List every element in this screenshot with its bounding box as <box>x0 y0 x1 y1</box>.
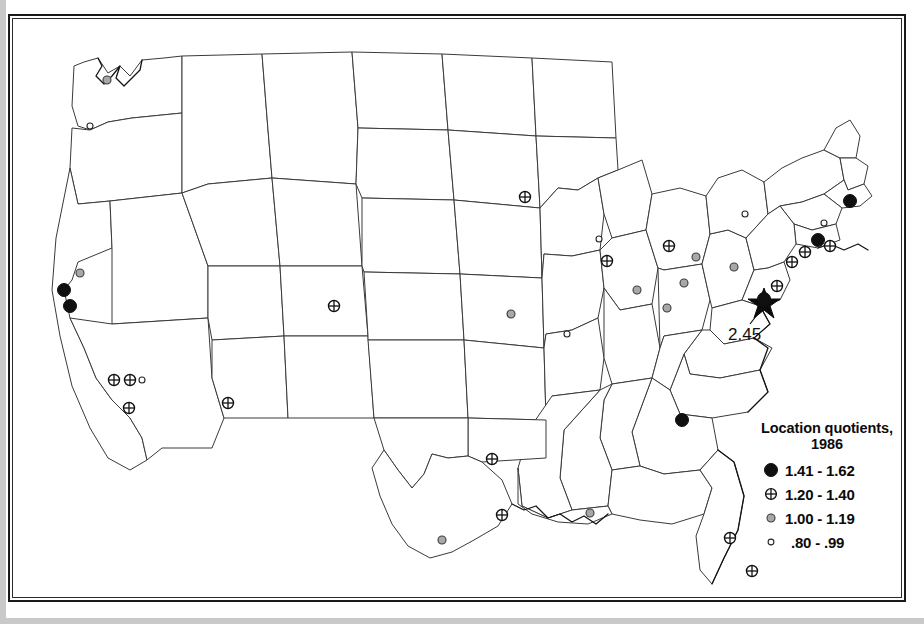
legend-label-class-1: 1.20 - 1.40 <box>785 486 855 503</box>
city-marker: New Orleans — 1.00 - 1.19 <box>586 509 594 517</box>
city-marker: Dallas — 1.20 - 1.40 <box>487 454 498 465</box>
city-marker: Seattle — 1.00 - 1.19 <box>103 76 111 84</box>
legend-title-line1: Location quotients, <box>761 420 893 436</box>
city-marker: San Diego — 1.20 - 1.40 <box>124 403 135 414</box>
city-marker: Newark — 1.20 - 1.40 <box>800 247 811 258</box>
legend-symbol-open-circle <box>757 533 785 551</box>
city-marker: Nassau — 1.20 - 1.40 <box>825 241 836 252</box>
city-marker: Cleveland — 1.00 - 1.19 <box>692 253 700 261</box>
city-marker: Oakland — 1.41 - 1.62 <box>64 300 77 313</box>
city-marker: Atlanta — 1.41 - 1.62 <box>676 414 689 427</box>
city-marker: Indianapolis — 1.00 - 1.19 <box>633 286 641 294</box>
city-marker: St. Louis — .80 - .99 <box>564 331 570 337</box>
state-boundaries <box>52 52 872 584</box>
legend-row-class-1: 1.20 - 1.40 <box>757 482 897 506</box>
legend-title-line2: 1986 <box>757 436 897 452</box>
city-marker: Detroit — 1.20 - 1.40 <box>664 241 675 252</box>
legend-row-class-0: 1.41 - 1.62 <box>757 458 897 482</box>
legend-row-class-2: 1.00 - 1.19 <box>757 506 897 530</box>
city-marker: Pittsburgh — 1.00 - 1.19 <box>730 263 738 271</box>
city-marker: Kansas City — 1.00 - 1.19 <box>507 310 515 318</box>
legend-symbol-filled-black-circle <box>757 461 785 479</box>
city-marker: San Antonio — 1.00 - 1.19 <box>438 536 446 544</box>
city-marker: Miami — 1.20 - 1.40 <box>747 566 758 577</box>
city-marker: Boston — 1.41 - 1.62 <box>844 195 857 208</box>
city-marker: Columbus — 1.00 - 1.19 <box>680 279 688 287</box>
city-marker: Los Angeles — 1.20 - 1.40 <box>109 375 120 386</box>
legend-symbol-gray-circle <box>757 509 785 527</box>
city-marker: Buffalo — .80 - .99 <box>742 211 748 217</box>
legend-label-class-0: 1.41 - 1.62 <box>785 462 855 479</box>
map-legend: Location quotients, 1986 1.41 - 1.62 1.2… <box>757 420 897 554</box>
scan-edge-left <box>0 0 6 624</box>
city-marker: Portland — .80 - .99 <box>87 123 93 129</box>
city-marker: Phoenix — 1.20 - 1.40 <box>223 398 234 409</box>
legend-label-class-3: .80 - .99 <box>785 534 844 551</box>
city-marker: Philadelphia — 1.20 - 1.40 <box>787 257 798 268</box>
city-marker: Houston — 1.20 - 1.40 <box>497 510 508 521</box>
city-marker: Sacramento — 1.00 - 1.19 <box>76 269 84 277</box>
city-marker: Minneapolis — 1.20 - 1.40 <box>520 192 531 203</box>
city-marker: Tampa — 1.20 - 1.40 <box>725 533 736 544</box>
city-marker: Cincinnati — 1.00 - 1.19 <box>663 304 671 312</box>
city-marker: Chicago — 1.20 - 1.40 <box>602 256 613 267</box>
city-marker: Milwaukee — .80 - .99 <box>596 236 602 242</box>
annotation-value-label: 2.45 <box>728 325 761 344</box>
location-quotient-map: 2.45 Seattle — 1.00 - 1.19Portland — .80… <box>0 0 924 624</box>
city-marker: Anaheim — .80 - .99 <box>139 377 145 383</box>
scan-edge-bottom <box>0 618 924 624</box>
city-marker: San Francisco — 1.41 - 1.62 <box>58 284 71 297</box>
city-marker: Denver — 1.20 - 1.40 <box>329 301 340 312</box>
city-marker: Baltimore — 1.20 - 1.40 <box>772 281 783 292</box>
legend-symbol-crosshatch-circle <box>757 485 785 503</box>
city-marker: Riverside — 1.20 - 1.40 <box>125 375 136 386</box>
legend-label-class-2: 1.00 - 1.19 <box>785 510 855 527</box>
city-marker: New York — 1.41 - 1.62 <box>812 234 825 247</box>
city-marker: Hartford — .80 - .99 <box>821 220 827 226</box>
city-marker: Washington DC — 1.41 - 1.62 <box>758 293 771 306</box>
legend-title: Location quotients, 1986 <box>757 420 897 452</box>
legend-row-class-3: .80 - .99 <box>757 530 897 554</box>
